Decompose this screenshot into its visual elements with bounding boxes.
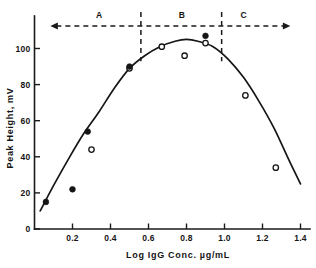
open-circle-markers	[89, 40, 279, 170]
fitted-response-curve	[40, 39, 300, 210]
x-tick-label: 1.2	[256, 233, 269, 243]
region-label: B	[179, 10, 185, 20]
chart-figure: 020406080100 0.20.40.60.81.01.21.4 ABC L…	[0, 0, 316, 268]
x-tick-label: 0.8	[180, 233, 193, 243]
data-point-open	[203, 40, 208, 45]
y-tick-label: 40	[20, 152, 30, 162]
x-tick-label: 0.4	[104, 233, 117, 243]
y-tick-label: 60	[20, 116, 30, 126]
x-axis-title: Log IgG Conc. µg/mL	[126, 250, 230, 260]
axes	[35, 16, 311, 229]
data-point-filled	[70, 186, 76, 192]
region-annotations: ABC	[50, 10, 290, 61]
x-tick-label: 1.0	[218, 233, 231, 243]
x-axis-ticks: 0.20.40.60.81.01.21.4	[66, 224, 307, 244]
y-axis-title: Peak Height, mV	[5, 87, 15, 168]
data-point-open	[273, 165, 278, 170]
x-tick-label: 1.4	[294, 233, 307, 243]
y-tick-label: 100	[15, 44, 30, 54]
y-tick-label: 20	[20, 188, 30, 198]
x-tick-label: 0.6	[142, 233, 155, 243]
chart-canvas: 020406080100 0.20.40.60.81.01.21.4 ABC L…	[0, 0, 316, 268]
data-point-open	[89, 147, 94, 152]
y-tick-label: 80	[20, 80, 30, 90]
region-label: A	[96, 10, 102, 20]
data-point-filled	[43, 199, 49, 205]
data-point-open	[159, 44, 164, 49]
y-tick-label: 0	[25, 224, 30, 234]
data-point-filled	[127, 64, 133, 70]
data-point-open	[182, 53, 187, 58]
region-label: C	[240, 10, 246, 20]
region-span-arrow-right	[283, 22, 291, 29]
region-span-arrow-left	[50, 22, 58, 29]
x-tick-label: 0.2	[66, 233, 79, 243]
data-point-filled	[85, 129, 91, 135]
data-point-open	[243, 93, 248, 98]
y-axis-ticks: 020406080100	[15, 44, 40, 235]
data-point-filled	[203, 33, 209, 39]
